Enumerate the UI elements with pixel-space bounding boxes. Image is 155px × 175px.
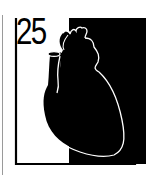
number-label: 25 — [16, 14, 46, 50]
heart-number-icon: 25 — [0, 0, 155, 175]
